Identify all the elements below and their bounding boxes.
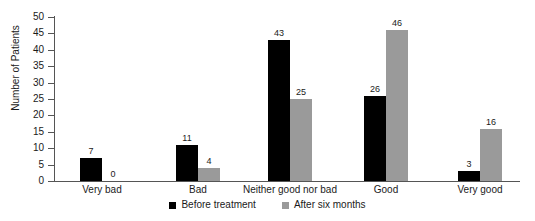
bar-value-label: 7 xyxy=(80,147,102,156)
bar xyxy=(386,30,408,181)
chart-legend: Before treatmentAfter six months xyxy=(0,200,535,210)
y-axis-tick-label: 20 xyxy=(22,110,44,120)
bar xyxy=(198,168,220,181)
bar-value-label: 25 xyxy=(290,88,312,97)
bar-value-label: 11 xyxy=(176,134,198,143)
y-axis-tick-label: 25 xyxy=(22,94,44,104)
legend-label: Before treatment xyxy=(181,200,255,210)
y-axis-tick-label: 45 xyxy=(22,28,44,38)
bar xyxy=(480,129,502,181)
bar-value-label: 26 xyxy=(364,85,386,94)
y-axis-tick-label: 30 xyxy=(22,78,44,88)
y-axis-tick-label: 40 xyxy=(22,45,44,55)
bar xyxy=(268,40,290,181)
bar-value-label: 3 xyxy=(458,160,480,169)
y-axis-tick-label: 15 xyxy=(22,127,44,137)
bar-chart: Number of Patients 05101520253035404550 … xyxy=(0,0,535,221)
bar xyxy=(80,158,102,181)
legend-swatch-icon xyxy=(282,202,289,209)
y-axis-title: Number of Patients xyxy=(10,8,22,128)
legend-item: Before treatment xyxy=(169,200,255,210)
y-axis-tick-label: 50 xyxy=(22,12,44,22)
legend-item: After six months xyxy=(282,200,366,210)
plot-area: 7011443252646316 xyxy=(54,17,520,181)
bar-value-label: 4 xyxy=(198,157,220,166)
legend-label: After six months xyxy=(294,200,366,210)
bar xyxy=(176,145,198,181)
y-axis-tick-label: 35 xyxy=(22,61,44,71)
y-axis-tick-label: 5 xyxy=(22,160,44,170)
bar xyxy=(364,96,386,181)
bar xyxy=(458,171,480,181)
bar-value-label: 16 xyxy=(480,118,502,127)
y-axis-tick-label: 10 xyxy=(22,143,44,153)
bar-value-label: 43 xyxy=(268,29,290,38)
bar-value-label: 0 xyxy=(102,170,124,179)
legend-swatch-icon xyxy=(169,202,176,209)
x-axis-label: Very good xyxy=(410,184,535,196)
bar-value-label: 46 xyxy=(386,19,408,28)
x-axis-line xyxy=(54,181,520,182)
y-axis-tick xyxy=(48,181,54,182)
bar xyxy=(290,99,312,181)
